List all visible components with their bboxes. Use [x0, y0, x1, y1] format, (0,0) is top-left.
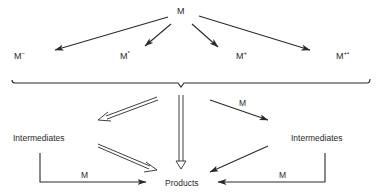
- arrow-right-intermediates-to-products: [210, 146, 268, 172]
- arrow-m-to-cation: [192, 24, 218, 47]
- edge-label-m-right-lower: M: [279, 170, 286, 180]
- arrow-m-to-anion: [55, 17, 168, 50]
- source-species-label: M: [177, 6, 185, 16]
- products-label: Products: [165, 178, 199, 188]
- species-anion-label: M−: [14, 50, 26, 61]
- species-excited-label: M*: [120, 50, 131, 61]
- species-radical-cation-label: M+•: [336, 50, 349, 61]
- species-cation-label: M+: [236, 50, 248, 61]
- double-arrow-to-products: [176, 95, 186, 169]
- reaction-scheme-diagram: M M− M* M+ M+• M Intermediates Intermedi…: [0, 0, 378, 195]
- arrow-m-to-excited: [145, 24, 171, 46]
- l-arrow-right-intermediates-to-products: [218, 153, 325, 182]
- double-arrow-left-intermediates-to-products: [98, 144, 157, 172]
- double-arrow-to-left-intermediates: [98, 97, 158, 121]
- edge-label-m-right-upper: M: [239, 98, 246, 108]
- edge-label-m-left-lower: M: [81, 170, 88, 180]
- left-intermediates-label: Intermediates: [13, 133, 65, 143]
- grouping-brace: [12, 79, 370, 87]
- right-intermediates-label: Intermediates: [291, 133, 343, 143]
